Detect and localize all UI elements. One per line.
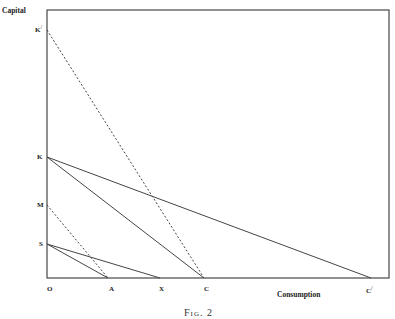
label-c-prime: C/ [366,285,373,295]
frame [47,10,389,278]
label-x: X [159,285,164,293]
label-k-prime: K/ [35,24,42,34]
y-axis-title: Capital [2,6,26,15]
label-k: K [37,153,42,161]
line-s-a [47,244,108,278]
label-o: O [47,285,52,293]
label-m: M [37,201,44,209]
line-k-c [47,157,204,278]
label-c: C [204,285,209,293]
diagram-canvas [0,0,395,319]
line-k-cprime [47,157,371,278]
label-a: A [109,285,114,293]
label-s: S [39,240,43,248]
figure-caption: Fig. 2 [184,307,213,318]
line-m-a [47,205,108,278]
line-kprime-c [47,30,204,278]
x-axis-title: Consumption [277,290,320,299]
